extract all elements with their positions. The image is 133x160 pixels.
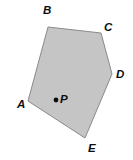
vertex-label-a: A [17,98,25,110]
pentagon-shape [28,27,112,138]
figure-canvas [0,0,133,160]
geometry-figure: A B C D E P [0,0,133,160]
vertex-label-e: E [88,142,96,154]
point-p-dot [54,98,59,103]
vertex-label-d: D [116,68,124,80]
vertex-label-b: B [43,4,51,16]
point-label-p: P [60,93,68,105]
vertex-label-c: C [104,21,112,33]
